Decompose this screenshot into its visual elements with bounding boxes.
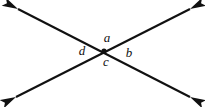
angle-label-d: d (79, 43, 86, 58)
angle-label-b: b (126, 45, 133, 60)
angle-label-a: a (104, 30, 111, 45)
intersection-point-dot (101, 48, 106, 53)
intersecting-lines-figure: a b c d (0, 0, 205, 107)
angle-diagram-canvas: a b c d (0, 0, 205, 107)
angle-label-c: c (103, 54, 109, 69)
